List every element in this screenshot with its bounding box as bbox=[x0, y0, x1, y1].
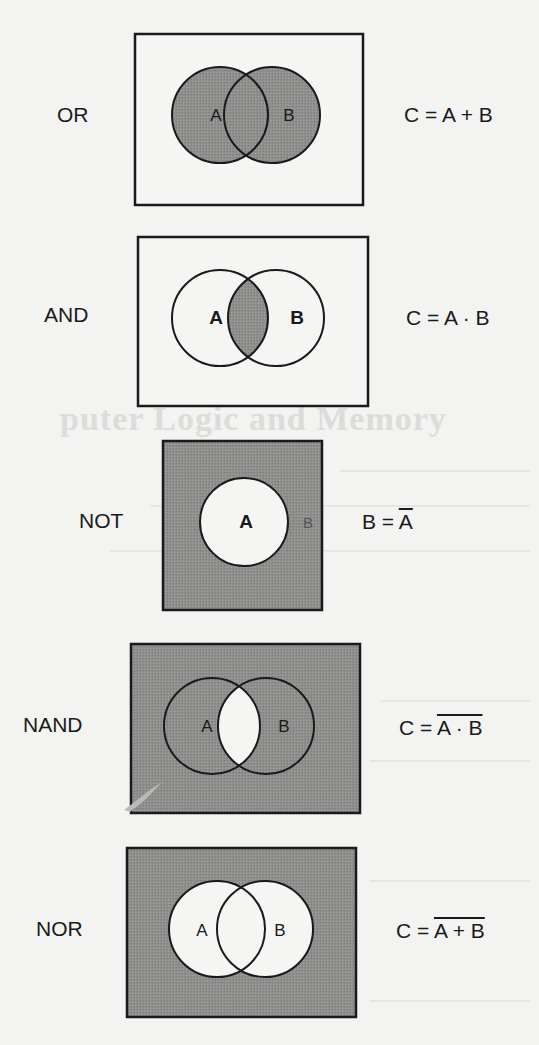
formula-lhs: C = bbox=[404, 103, 442, 126]
gate-label-not: NOT bbox=[79, 509, 123, 533]
nor-venn-diagram bbox=[127, 848, 356, 1017]
formula-lhs: B = bbox=[362, 510, 399, 533]
set-a-label: A bbox=[209, 307, 223, 329]
formula-lhs: C = bbox=[406, 306, 444, 329]
and-venn-diagram bbox=[138, 237, 368, 406]
set-a-label: A bbox=[201, 717, 212, 737]
gate-label-nand: NAND bbox=[23, 713, 83, 737]
set-b-label: B bbox=[283, 106, 294, 126]
gate-label-and: AND bbox=[44, 303, 88, 327]
set-b-label: B bbox=[290, 307, 304, 329]
set-b-label: B bbox=[278, 717, 289, 737]
formula-nand: C = A · B bbox=[399, 716, 482, 740]
formula-and: C = A · B bbox=[406, 306, 489, 330]
formula-rhs-negated: A + B bbox=[434, 919, 485, 942]
set-b-label: B bbox=[303, 514, 313, 531]
formula-rhs: A · B bbox=[444, 306, 490, 329]
set-a-label: A bbox=[196, 921, 207, 941]
formula-rhs-negated: A · B bbox=[437, 716, 483, 739]
set-b-label: B bbox=[274, 921, 285, 941]
formula-or: C = A + B bbox=[404, 103, 493, 127]
formula-lhs: C = bbox=[396, 919, 434, 942]
formula-nor: C = A + B bbox=[396, 919, 485, 943]
formula-rhs-negated: A bbox=[399, 510, 413, 533]
formula-lhs: C = bbox=[399, 716, 437, 739]
gate-label-nor: NOR bbox=[36, 917, 83, 941]
formula-not: B = A bbox=[362, 510, 413, 534]
set-a-label: A bbox=[239, 511, 253, 533]
or-venn-diagram bbox=[135, 34, 363, 205]
set-a-label: A bbox=[210, 106, 221, 126]
nand-venn-diagram bbox=[124, 644, 360, 813]
gate-label-or: OR bbox=[57, 103, 89, 127]
formula-rhs: A + B bbox=[442, 103, 493, 126]
